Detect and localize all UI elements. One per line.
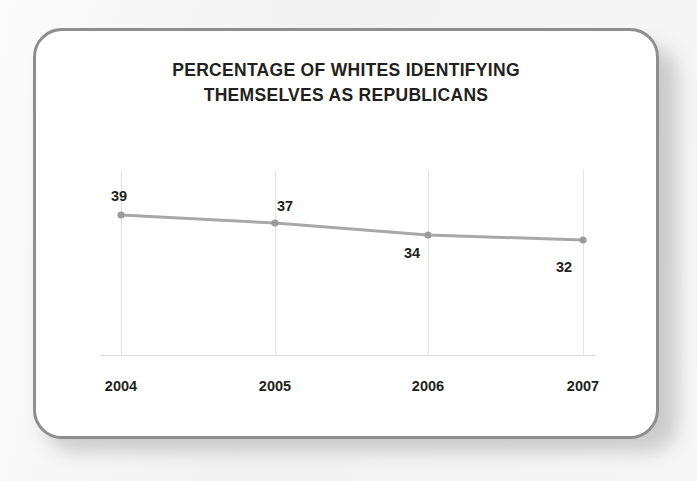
chart-title-line-1: PERCENTAGE OF WHITES IDENTIFYING — [36, 58, 656, 83]
chart-title: PERCENTAGE OF WHITES IDENTIFYING THEMSEL… — [36, 58, 656, 108]
chart-title-line-2: THEMSELVES AS REPUBLICANS — [36, 83, 656, 108]
page-background: PERCENTAGE OF WHITES IDENTIFYING THEMSEL… — [0, 0, 697, 481]
chart-card: PERCENTAGE OF WHITES IDENTIFYING THEMSEL… — [33, 28, 659, 439]
